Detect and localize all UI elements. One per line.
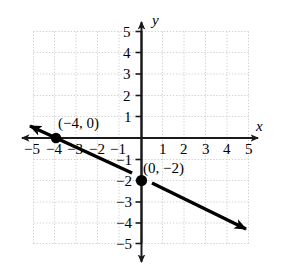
x-tick-label-neg1: −1: [110, 142, 126, 157]
coordinate-plane-graph: 5 4 3 2 1 −1 −2 −3 −4 −5 −5 −4 −3 −2 −1 …: [0, 0, 283, 274]
y-tick-label-2: 2: [123, 89, 131, 104]
y-tick-label-neg5: −5: [116, 237, 132, 252]
x-tick-label-neg5: −5: [24, 142, 40, 157]
x-tick-label-5: 5: [245, 142, 253, 157]
x-tick-label-4: 4: [223, 142, 231, 157]
point-label-y-intercept: (0, −2): [143, 161, 184, 176]
x-tick-label-neg3: −3: [67, 142, 83, 157]
y-tick-label-1: 1: [124, 110, 132, 125]
point-label-x-intercept: (−4, 0): [58, 116, 99, 131]
x-tick-label-neg2: −2: [89, 142, 105, 157]
x-tick-label-1: 1: [159, 142, 167, 157]
y-tick-label-3: 3: [123, 67, 131, 82]
y-tick-label-5: 5: [123, 25, 131, 40]
y-axis-label: y: [152, 13, 159, 28]
y-tick-label-4: 4: [123, 46, 131, 61]
y-tick-label-neg2: −2: [116, 174, 132, 189]
graph-canvas: [0, 0, 283, 274]
x-axis-label: x: [256, 119, 263, 134]
x-tick-label-3: 3: [202, 142, 210, 157]
y-tick-label-neg4: −4: [116, 216, 132, 231]
x-tick-label-2: 2: [180, 142, 188, 157]
x-tick-label-neg4: −4: [46, 142, 62, 157]
point-y-intercept: [136, 175, 147, 186]
y-tick-label-neg3: −3: [116, 195, 132, 210]
